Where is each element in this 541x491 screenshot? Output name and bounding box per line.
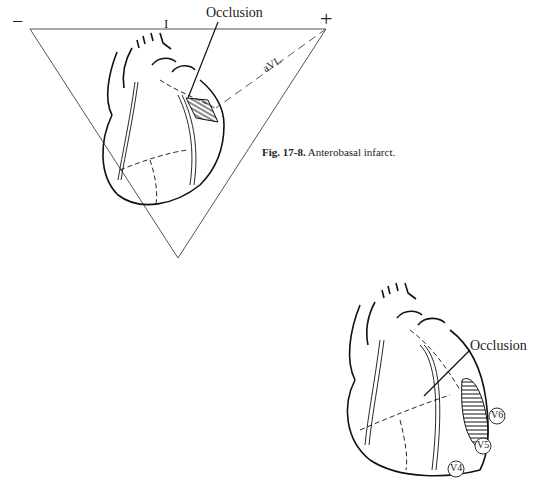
minus-pole-label: − [12, 10, 23, 33]
caption-text: Anterobasal infarct. [308, 146, 395, 158]
v6-label: V6 [491, 409, 503, 420]
v4-label: V4 [450, 462, 462, 473]
lead-i-label: I [164, 16, 168, 32]
v5-label: V5 [477, 439, 489, 450]
diagram-canvas [0, 0, 541, 491]
occlusion-pointer-top [188, 22, 218, 98]
caption-number: Fig. 17-8. [262, 146, 306, 158]
occlusion-label-bottom: Occlusion [470, 338, 527, 354]
occlusion-label-top: Occlusion [206, 5, 263, 21]
plus-pole-label: + [320, 6, 332, 32]
figure-caption: Fig. 17-8. Anterobasal infarct. [262, 146, 395, 158]
